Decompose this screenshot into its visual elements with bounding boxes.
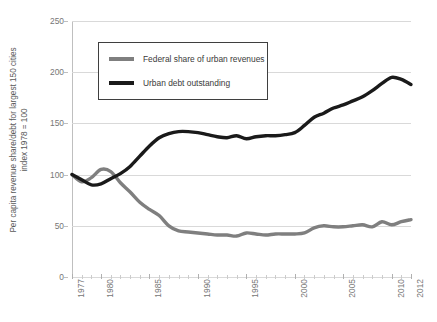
- x-tick-label: 2005: [347, 279, 357, 298]
- y-axis-title: Per capita revenue share/debt for larges…: [0, 0, 38, 280]
- y-tick-label: 200: [34, 67, 64, 77]
- x-tick-label: 1990: [202, 279, 212, 298]
- x-tick-mark-minor: [372, 275, 373, 279]
- x-tick-mark-minor: [382, 275, 383, 279]
- x-tick-mark-major: [392, 274, 393, 279]
- x-tick-mark-major: [72, 274, 73, 279]
- x-tick-mark-minor: [237, 275, 238, 279]
- x-axis-tick-labels: 197719801985199019952000200520102012: [72, 279, 411, 321]
- legend-item-urban-debt: Urban debt outstanding: [109, 78, 230, 88]
- y-axis-title-line1: Per capita revenue share/debt for larges…: [9, 47, 18, 232]
- legend-swatch-urban-debt: [109, 81, 134, 85]
- x-tick-mark-minor: [324, 275, 325, 279]
- x-tick-mark-minor: [314, 275, 315, 279]
- y-axis-tick-labels: 050100150200250: [34, 21, 68, 277]
- x-tick-mark-minor: [334, 275, 335, 279]
- x-tick-mark-minor: [120, 275, 121, 279]
- x-tick-mark-minor: [275, 275, 276, 279]
- x-tick-mark-minor: [169, 275, 170, 279]
- y-tick-label: 0: [34, 272, 64, 282]
- x-tick-mark-minor: [188, 275, 189, 279]
- y-tick-mark: [64, 226, 68, 227]
- legend-swatch-federal-share: [109, 57, 134, 61]
- x-tick-mark-major: [101, 274, 102, 279]
- line-chart: Per capita revenue share/debt for larges…: [0, 0, 437, 322]
- x-tick-label: 1995: [250, 279, 260, 298]
- legend-label-urban-debt: Urban debt outstanding: [143, 78, 230, 88]
- x-tick-label: 1985: [153, 279, 163, 298]
- x-tick-label: 2012: [415, 279, 425, 298]
- y-tick-mark: [64, 175, 68, 176]
- x-tick-label: 2000: [299, 279, 309, 298]
- x-tick-mark-minor: [179, 275, 180, 279]
- x-tick-mark-major: [295, 274, 296, 279]
- x-tick-mark-minor: [266, 275, 267, 279]
- x-tick-mark-minor: [285, 275, 286, 279]
- x-tick-mark-major: [198, 274, 199, 279]
- series-line-federal-share: [72, 169, 411, 236]
- y-tick-label: 150: [34, 118, 64, 128]
- gridline: [72, 277, 411, 278]
- y-tick-label: 250: [34, 16, 64, 26]
- x-tick-mark-minor: [227, 275, 228, 279]
- y-tick-label: 100: [34, 170, 64, 180]
- x-tick-label: 1977: [76, 279, 86, 298]
- x-tick-mark-major: [411, 274, 412, 279]
- y-tick-label: 50: [34, 221, 64, 231]
- legend-item-federal-share: Federal share of urban revenues: [109, 54, 265, 64]
- x-tick-mark-minor: [130, 275, 131, 279]
- x-tick-label: 1980: [105, 279, 115, 298]
- y-tick-mark: [64, 277, 68, 278]
- y-tick-mark: [64, 123, 68, 124]
- x-tick-mark-minor: [363, 275, 364, 279]
- x-tick-mark-minor: [140, 275, 141, 279]
- y-tick-mark: [64, 21, 68, 22]
- x-tick-label: 2010: [396, 279, 406, 298]
- x-tick-mark-minor: [217, 275, 218, 279]
- legend-label-federal-share: Federal share of urban revenues: [143, 54, 265, 64]
- x-tick-mark-major: [246, 274, 247, 279]
- x-tick-mark-major: [149, 274, 150, 279]
- legend: Federal share of urban revenues Urban de…: [98, 42, 268, 100]
- y-tick-mark: [64, 72, 68, 73]
- x-tick-mark-minor: [91, 275, 92, 279]
- x-tick-mark-major: [343, 274, 344, 279]
- y-axis-title-line2: index 1978 = 100: [19, 47, 30, 232]
